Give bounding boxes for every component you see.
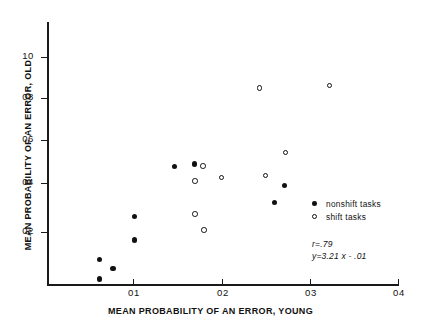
y-axis-title: MEAN PROBABILITY OF AN ERROR, OLD xyxy=(23,35,33,275)
data-point-shift xyxy=(201,227,207,233)
x-tick-03 xyxy=(310,279,311,285)
y-tick-10 xyxy=(41,57,47,58)
data-point-nonshift xyxy=(172,164,177,169)
data-point-nonshift xyxy=(110,266,115,271)
data-point-shift xyxy=(192,211,198,217)
correlation-value: r=.79 xyxy=(312,238,367,250)
x-axis-title: MEAN PROBABILITY OF AN ERROR, YOUNG xyxy=(0,306,421,316)
data-point-shift xyxy=(192,178,198,184)
y-tick-08 xyxy=(41,98,47,99)
legend-label-nonshift: nonshift tasks xyxy=(324,199,381,209)
y-tick-06 xyxy=(41,140,47,141)
y-tick-04 xyxy=(41,183,47,184)
data-point-nonshift xyxy=(192,161,197,166)
scatter-plot-figure: 10 08 06 04 02 01 02 03 04 MEAN PROBABIL… xyxy=(0,0,421,330)
y-tick-02 xyxy=(41,232,47,233)
data-point-shift xyxy=(219,175,225,181)
x-tick-label-01: 01 xyxy=(119,288,149,298)
data-point-shift xyxy=(200,163,206,169)
data-point-nonshift xyxy=(132,214,137,219)
open-circle-icon xyxy=(312,214,324,219)
filled-circle-icon xyxy=(312,201,324,206)
data-point-nonshift xyxy=(97,257,102,262)
legend-label-shift: shift tasks xyxy=(324,212,366,222)
regression-equation: y=3.21 x - .01 xyxy=(312,250,367,262)
data-point-nonshift xyxy=(97,276,102,281)
data-point-shift xyxy=(257,85,263,91)
x-tick-01 xyxy=(133,279,134,285)
data-point-nonshift xyxy=(282,183,287,188)
x-tick-04 xyxy=(398,279,399,285)
legend-item-nonshift: nonshift tasks xyxy=(312,197,381,210)
x-tick-02 xyxy=(222,279,223,285)
data-point-shift xyxy=(283,150,289,156)
x-tick-label-02: 02 xyxy=(208,288,238,298)
y-axis-line xyxy=(47,22,49,285)
data-point-shift xyxy=(263,173,269,179)
statistics-annotation: r=.79 y=3.21 x - .01 xyxy=(312,238,367,262)
legend-item-shift: shift tasks xyxy=(312,210,381,223)
data-point-shift xyxy=(327,83,333,89)
x-tick-label-04: 04 xyxy=(384,288,414,298)
x-tick-label-03: 03 xyxy=(296,288,326,298)
data-point-nonshift xyxy=(132,237,137,242)
data-point-nonshift xyxy=(272,200,277,205)
legend: nonshift tasks shift tasks xyxy=(312,197,381,223)
